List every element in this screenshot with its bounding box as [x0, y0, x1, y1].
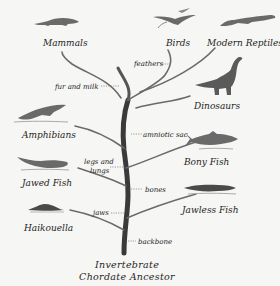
trait-legs-and-lungs-line1: legs and: [84, 158, 114, 166]
label-mammals: Mammals: [43, 38, 88, 48]
jawed-fish-icon: [15, 153, 71, 173]
label-jawed-fish: Jawed Fish: [22, 178, 72, 188]
trait-legs-and-lungs-line2: lungs: [90, 167, 109, 175]
trait-fur-and-milk: fur and milk: [55, 83, 98, 91]
phylogenetic-tree-diagram: Mammals Birds Modern Reptiles Dinosaurs …: [0, 0, 280, 286]
reptile-icon: [218, 12, 278, 28]
label-haikouella: Haikouella: [24, 223, 73, 233]
trait-amniotic-sac: amniotic sac: [143, 131, 188, 139]
jawless-fish-icon: [182, 182, 238, 196]
label-dinosaurs: Dinosaurs: [194, 101, 240, 111]
bird-icon: [148, 5, 198, 30]
trait-jaws: jaws: [93, 209, 109, 217]
trait-feathers: feathers: [134, 60, 163, 68]
label-birds: Birds: [166, 38, 190, 48]
label-amphibians: Amphibians: [22, 130, 76, 140]
dinosaur-icon: [193, 55, 245, 99]
trait-bones: bones: [145, 186, 166, 194]
haikouella-icon: [26, 202, 66, 214]
root-ancestor-label: Invertebrate Chordate Ancestor: [72, 259, 182, 283]
root-line1: Invertebrate: [72, 259, 182, 271]
mammal-icon: [32, 14, 80, 30]
trait-backbone: backbone: [138, 238, 172, 246]
label-bony-fish: Bony Fish: [184, 157, 229, 167]
label-modern-reptiles: Modern Reptiles: [207, 38, 280, 48]
root-line2: Chordate Ancestor: [72, 271, 182, 283]
label-jawless-fish: Jawless Fish: [182, 205, 239, 215]
bony-fish-icon: [183, 130, 239, 150]
amphibian-icon: [12, 100, 68, 124]
